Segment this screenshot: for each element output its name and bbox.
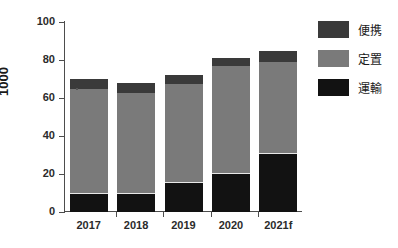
x-tick-mark bbox=[211, 212, 212, 217]
stacked-bar-chart: 1000 020406080100 20172018201920202021f … bbox=[0, 0, 398, 248]
bar-group[interactable] bbox=[259, 22, 297, 212]
x-tick-mark bbox=[258, 212, 259, 217]
y-tick-label-wrap: 40 bbox=[25, 130, 55, 141]
bar-stack bbox=[117, 83, 155, 212]
bar-stack bbox=[165, 75, 203, 212]
bar-segment-portable[interactable] bbox=[165, 75, 203, 84]
y-tick-label: 60 bbox=[27, 92, 55, 103]
y-tick-label-wrap: 100 bbox=[25, 16, 55, 27]
y-tick-label-wrap: 60 bbox=[25, 92, 55, 103]
bar-segment-stationary[interactable] bbox=[259, 62, 297, 154]
legend-stray-dot bbox=[76, 88, 78, 90]
legend-swatch-icon bbox=[318, 79, 349, 96]
bar-segment-transport[interactable] bbox=[165, 183, 203, 212]
bar-segment-stationary[interactable] bbox=[212, 66, 250, 174]
bar-segment-transport[interactable] bbox=[212, 174, 250, 212]
bar-segment-portable[interactable] bbox=[117, 83, 155, 93]
y-tick-label-wrap: 80 bbox=[25, 54, 55, 65]
x-tick-label-2021f: 2021f bbox=[250, 220, 306, 231]
chart-legend: 便携定置運輸 bbox=[318, 16, 396, 103]
bar-segment-portable[interactable] bbox=[212, 58, 250, 66]
y-axis-title: 1000 bbox=[0, 67, 11, 96]
legend-label: 運輸 bbox=[358, 79, 382, 96]
bar-group[interactable] bbox=[212, 22, 250, 212]
bar-segment-transport[interactable] bbox=[70, 194, 108, 212]
bar-stack bbox=[212, 58, 250, 212]
bar-group[interactable] bbox=[165, 22, 203, 212]
y-tick-mark bbox=[59, 212, 65, 213]
bar-segment-stationary[interactable] bbox=[165, 84, 203, 183]
y-tick-label-wrap: 0 bbox=[25, 206, 55, 217]
bar-stack bbox=[259, 51, 297, 212]
legend-swatch-icon bbox=[318, 21, 349, 38]
y-tick-label: 20 bbox=[27, 168, 55, 179]
legend-swatch-icon bbox=[318, 50, 349, 67]
legend-label: 便携 bbox=[358, 21, 382, 38]
bar-segment-stationary[interactable] bbox=[70, 89, 108, 194]
bar-stack bbox=[70, 79, 108, 212]
bar-segment-portable[interactable] bbox=[259, 51, 297, 62]
plot-area bbox=[65, 22, 302, 212]
bar-group[interactable] bbox=[70, 22, 108, 212]
bar-segment-stationary[interactable] bbox=[117, 93, 155, 194]
bar-segment-transport[interactable] bbox=[259, 154, 297, 212]
y-tick-label-wrap: 20 bbox=[25, 168, 55, 179]
y-tick-label: 100 bbox=[27, 16, 55, 27]
x-tick-mark bbox=[163, 212, 164, 217]
legend-item[interactable]: 定置 bbox=[318, 45, 396, 72]
bar-group[interactable] bbox=[117, 22, 155, 212]
y-tick-label: 40 bbox=[27, 130, 55, 141]
bar-segment-transport[interactable] bbox=[117, 194, 155, 212]
legend-item[interactable]: 運輸 bbox=[318, 74, 396, 101]
y-tick-label: 80 bbox=[27, 54, 55, 65]
x-tick-mark bbox=[116, 212, 117, 217]
legend-label: 定置 bbox=[358, 50, 382, 67]
y-tick-label: 0 bbox=[27, 206, 55, 217]
legend-item[interactable]: 便携 bbox=[318, 16, 396, 43]
